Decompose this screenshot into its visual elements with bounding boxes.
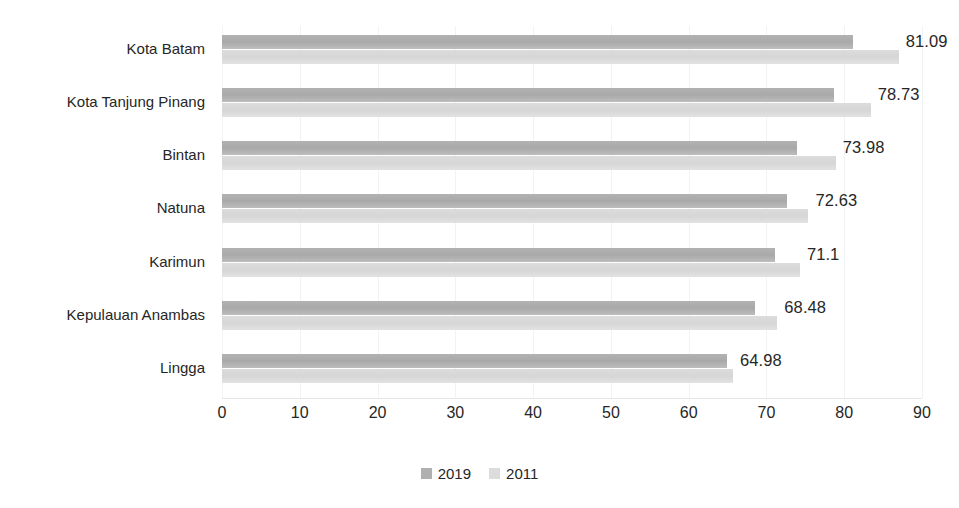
bar-2011 <box>222 103 871 117</box>
x-tick-label: 10 <box>291 404 309 422</box>
legend-item-2019[interactable]: 2019 <box>421 465 471 482</box>
x-axis-tick-labels: 0102030405060708090 <box>0 404 959 430</box>
x-tick-label: 50 <box>602 404 620 422</box>
bar-2011 <box>222 50 899 64</box>
bar-group: 71.1 <box>222 248 922 278</box>
x-axis-line <box>222 398 922 399</box>
bar-value-label: 68.48 <box>784 298 826 317</box>
x-tick-label: 70 <box>758 404 776 422</box>
bar-value-label: 73.98 <box>843 138 885 157</box>
legend-label: 2011 <box>506 465 538 482</box>
legend-swatch-icon <box>489 468 500 479</box>
x-tick-label: 90 <box>913 404 931 422</box>
bar-value-label: 81.09 <box>906 32 948 51</box>
bar-group: 64.98 <box>222 354 922 384</box>
bar-value-label: 78.73 <box>878 85 920 104</box>
x-tick-label: 20 <box>369 404 387 422</box>
plot-area: 81.0978.7373.9872.6371.168.4864.98 <box>222 26 922 398</box>
x-tick-label: 0 <box>218 404 227 422</box>
bar-group: 78.73 <box>222 88 922 118</box>
x-tick-label: 60 <box>680 404 698 422</box>
category-label: Bintan <box>0 146 205 163</box>
bar-2019 <box>222 88 834 102</box>
bar-group: 68.48 <box>222 301 922 331</box>
category-label: Natuna <box>0 199 205 216</box>
bar-2019 <box>222 141 797 155</box>
x-tick-label: 30 <box>446 404 464 422</box>
category-label: Lingga <box>0 359 205 376</box>
category-label: Kepulauan Anambas <box>0 306 205 323</box>
bar-2019 <box>222 354 727 368</box>
x-tick-label: 40 <box>524 404 542 422</box>
bar-2019 <box>222 35 853 49</box>
bar-group: 73.98 <box>222 141 922 171</box>
bar-value-label: 72.63 <box>815 191 857 210</box>
gridline-90 <box>922 26 923 398</box>
bar-2011 <box>222 369 733 383</box>
bar-value-label: 71.1 <box>807 245 840 264</box>
bar-2019 <box>222 301 755 315</box>
chart-legend: 20192011 <box>0 465 959 482</box>
bar-2019 <box>222 248 775 262</box>
bar-2011 <box>222 263 800 277</box>
bar-value-label: 64.98 <box>740 351 782 370</box>
category-label: Karimun <box>0 253 205 270</box>
bar-2011 <box>222 209 808 223</box>
legend-label: 2019 <box>438 465 471 482</box>
bar-rows: 81.0978.7373.9872.6371.168.4864.98 <box>222 26 922 398</box>
bar-2011 <box>222 156 836 170</box>
bar-group: 81.09 <box>222 35 922 65</box>
bar-group: 72.63 <box>222 194 922 224</box>
category-axis-labels: Kota BatamKota Tanjung PinangBintanNatun… <box>0 26 210 398</box>
bar-chart: Kota BatamKota Tanjung PinangBintanNatun… <box>0 0 959 508</box>
bar-2019 <box>222 194 787 208</box>
legend-swatch-icon <box>421 468 432 479</box>
bar-2011 <box>222 316 777 330</box>
legend-item-2011[interactable]: 2011 <box>489 465 538 482</box>
category-label: Kota Batam <box>0 40 205 57</box>
x-tick-label: 80 <box>835 404 853 422</box>
category-label: Kota Tanjung Pinang <box>0 93 205 110</box>
